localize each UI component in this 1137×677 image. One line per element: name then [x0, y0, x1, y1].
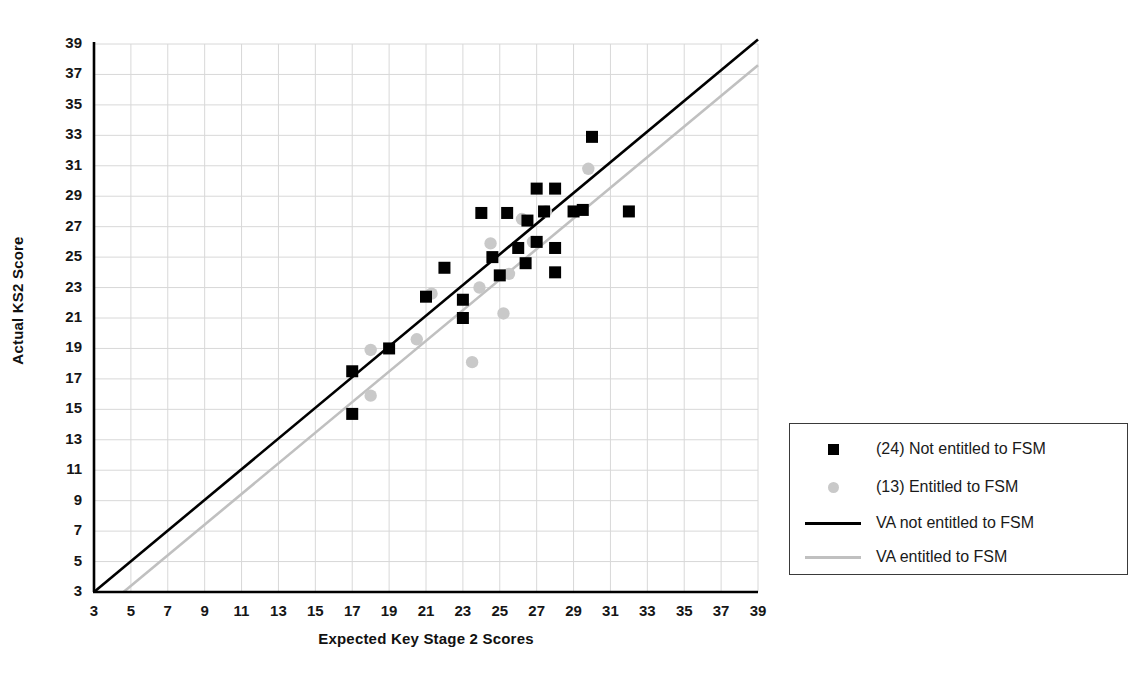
x-axis-title: Expected Key Stage 2 Scores [318, 630, 534, 647]
y-tick-label: 25 [52, 247, 82, 264]
y-tick-label: 17 [52, 369, 82, 386]
x-tick-label: 13 [263, 602, 293, 619]
data-points-entitled [364, 163, 594, 402]
y-tick-label: 23 [52, 278, 82, 295]
square-marker-icon [790, 444, 876, 455]
line-swatch-icon-black [790, 522, 876, 525]
legend: (24) Not entitled to FSM (13) Entitled t… [789, 423, 1128, 575]
y-tick-label: 33 [52, 125, 82, 142]
x-tick-label: 19 [374, 602, 404, 619]
legend-item-va-not-entitled: VA not entitled to FSM [790, 504, 1127, 542]
legend-item-entitled: (13) Entitled to FSM [790, 468, 1127, 506]
legend-label-va-entitled: VA entitled to FSM [876, 548, 1007, 566]
x-tick-label: 3 [79, 602, 109, 619]
legend-label-entitled: (13) Entitled to FSM [876, 478, 1018, 496]
x-tick-label: 15 [300, 602, 330, 619]
x-tick-label: 17 [337, 602, 367, 619]
y-tick-label: 9 [52, 491, 82, 508]
x-tick-label: 31 [595, 602, 625, 619]
y-tick-label: 5 [52, 552, 82, 569]
y-tick-label: 29 [52, 186, 82, 203]
x-tick-label: 35 [669, 602, 699, 619]
x-axis-title-wrapper: Expected Key Stage 2 Scores [94, 630, 758, 648]
legend-item-va-entitled: VA entitled to FSM [790, 538, 1127, 576]
x-tick-label: 37 [706, 602, 736, 619]
y-tick-label: 37 [52, 64, 82, 81]
x-tick-label: 21 [411, 602, 441, 619]
y-tick-label: 11 [52, 460, 82, 477]
y-tick-label: 31 [52, 156, 82, 173]
x-tick-label: 29 [559, 602, 589, 619]
y-tick-label: 27 [52, 217, 82, 234]
y-tick-label: 21 [52, 308, 82, 325]
x-tick-label: 27 [522, 602, 552, 619]
x-tick-label: 9 [190, 602, 220, 619]
y-tick-label: 19 [52, 338, 82, 355]
line-swatch-icon-grey [790, 556, 876, 559]
x-tick-label: 33 [632, 602, 662, 619]
y-tick-label: 39 [52, 34, 82, 51]
x-tick-label: 39 [743, 602, 773, 619]
y-tick-label: 7 [52, 521, 82, 538]
x-tick-label: 23 [448, 602, 478, 619]
x-tick-label: 7 [153, 602, 183, 619]
x-tick-label: 5 [116, 602, 146, 619]
scatter-chart: Actual KS2 Score 35791113151719212325272… [0, 0, 1137, 677]
x-tick-label: 11 [227, 602, 257, 619]
legend-label-not-entitled: (24) Not entitled to FSM [876, 440, 1046, 458]
y-tick-label: 13 [52, 430, 82, 447]
legend-item-not-entitled: (24) Not entitled to FSM [790, 430, 1127, 468]
legend-label-va-not-entitled: VA not entitled to FSM [876, 514, 1034, 532]
x-tick-label: 25 [485, 602, 515, 619]
circle-marker-icon [790, 482, 876, 493]
y-tick-label: 35 [52, 95, 82, 112]
y-tick-label: 3 [52, 582, 82, 599]
y-tick-label: 15 [52, 399, 82, 416]
